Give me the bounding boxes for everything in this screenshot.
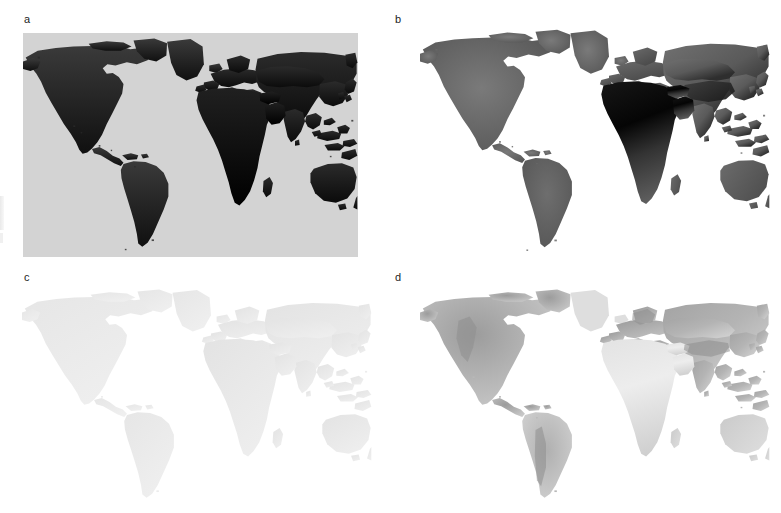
panel-a: a bbox=[0, 0, 380, 260]
panel-c-label: c bbox=[24, 272, 30, 283]
panel-b-map-raster bbox=[420, 24, 770, 258]
panel-a-map-raster bbox=[23, 33, 358, 257]
panel-d-map bbox=[420, 284, 770, 508]
panel-b-label: b bbox=[395, 14, 401, 25]
panel-d: d bbox=[380, 260, 781, 513]
panel-b: b bbox=[380, 0, 781, 260]
panel-c-map-raster bbox=[22, 284, 372, 508]
panel-d-map-raster bbox=[420, 284, 770, 508]
scan-artifact-left bbox=[0, 196, 4, 230]
panel-c: c bbox=[0, 260, 380, 513]
panel-a-label: a bbox=[24, 14, 30, 25]
panel-d-label: d bbox=[395, 272, 401, 283]
figure-container: a bbox=[0, 0, 781, 513]
scan-artifact-left-2 bbox=[0, 233, 3, 243]
panel-b-map bbox=[420, 24, 770, 258]
panel-a-map bbox=[23, 33, 358, 257]
panel-c-map bbox=[22, 284, 372, 508]
